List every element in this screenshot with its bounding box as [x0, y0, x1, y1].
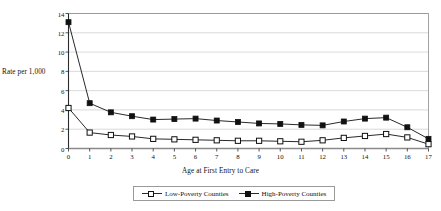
legend-label-low-poverty: Low-Poverty Counties [165, 190, 229, 198]
filled-square-marker-icon [239, 190, 259, 198]
x-axis-title: Age at First Entry to Care [0, 167, 441, 175]
chart-legend: Low-Poverty Counties High-Poverty Counti… [133, 186, 335, 201]
legend-item-high-poverty: High-Poverty Counties [239, 190, 327, 198]
plot-area [0, 0, 441, 211]
chart-figure: Rate per 1,000 02468101214 0123456789101… [0, 0, 441, 211]
open-square-marker-icon [142, 190, 162, 198]
legend-label-high-poverty: High-Poverty Counties [262, 190, 327, 198]
legend-item-low-poverty: Low-Poverty Counties [142, 190, 229, 198]
